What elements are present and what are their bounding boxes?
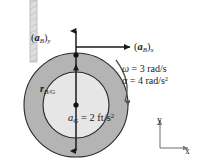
label-accel-B-y-component: y [47,37,50,44]
point-G-marker [73,102,78,107]
label-angular-acceleration-units-exponent: 2 [165,75,168,82]
label-accel-G-units-exponent: 2 [111,112,114,119]
coordinate-axes [160,120,188,148]
label-angular-acceleration-equals: = [130,75,136,86]
label-accel-B-x-component: x [150,46,153,53]
label-angular-velocity-symbol: ω [122,63,129,74]
label-angular-acceleration-symbol: α [122,75,127,86]
label-accel-G-units: ft/s [97,112,110,123]
label-angular-velocity-value: 3 [140,63,145,74]
label-position-r-BG: rB/G [40,84,55,96]
label-accel-G-equals: = [81,112,87,123]
label-position-r-sub: B/G [44,88,55,95]
label-angular-velocity-units: rad/s [147,63,166,74]
vertical-cord [30,0,37,62]
label-axis-x: x [185,147,190,157]
mechanics-figure: (aB)y (aB)x rB/G aG = 2 ft/s2 ω = 3 rad/… [0,0,197,168]
label-angular-velocity: ω = 3 rad/s [122,64,167,74]
label-axis-y: y [157,116,162,126]
label-angular-velocity-equals: = [132,63,138,74]
label-angular-acceleration: α = 4 rad/s2 [122,76,168,86]
point-B-marker [73,52,78,57]
label-accel-B-x: (aB)x [134,42,154,54]
label-accel-G-value: 2 [89,112,94,123]
label-angular-acceleration-value: 4 [138,75,143,86]
label-angular-acceleration-units: rad/s [145,75,164,86]
label-accel-G: aG = 2 ft/s2 [68,113,114,125]
label-accel-B-y: (aB)y [31,33,51,45]
label-accel-G-sub: G [73,117,78,124]
